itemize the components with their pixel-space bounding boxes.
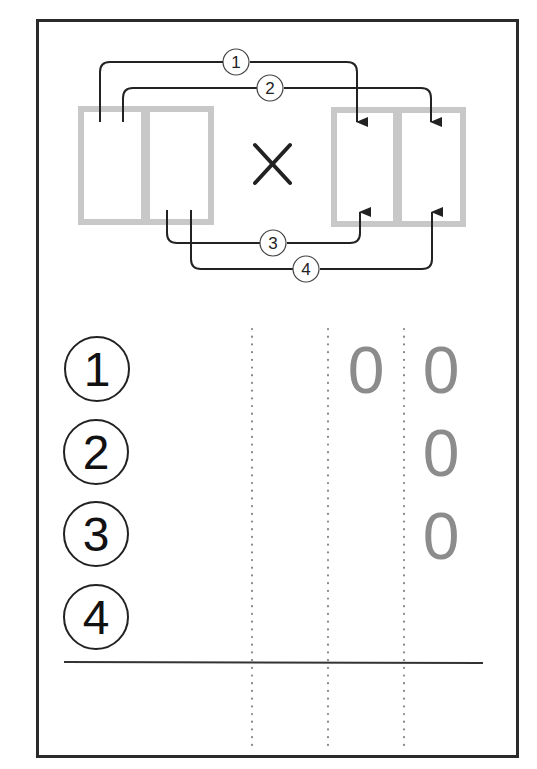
row-label-1-text: 1	[84, 343, 111, 396]
right-ones-box	[399, 110, 463, 224]
right-tens-box	[334, 110, 396, 224]
arrow-label-2: 2	[265, 79, 274, 98]
row-1-digit-ones: 0	[423, 333, 460, 407]
row-label-3: 3	[64, 502, 128, 566]
row-label-1: 1	[65, 337, 129, 401]
multiply-icon	[255, 145, 290, 183]
row-label-3-text: 3	[83, 508, 110, 561]
row-3-digit-ones: 0	[423, 499, 460, 573]
row-2-digit-ones: 0	[423, 416, 460, 490]
row-1-digit-tens: 0	[348, 333, 385, 407]
sum-line	[64, 662, 483, 663]
arrow-label-4: 4	[301, 260, 310, 279]
left-tens-box	[81, 109, 144, 222]
arrow-label-1: 1	[231, 53, 240, 72]
diagram-canvas: 1 2 3 4 1 2 3 4 0 0 0 0	[0, 0, 537, 769]
row-label-4: 4	[64, 585, 128, 649]
row-label-2-text: 2	[83, 426, 110, 479]
arrow-path-2: 2	[123, 75, 431, 122]
right-factor-boxes	[334, 110, 463, 224]
left-factor-boxes	[81, 109, 211, 222]
arrow-label-3: 3	[268, 234, 277, 253]
row-label-4-text: 4	[83, 591, 110, 644]
row-label-2: 2	[64, 420, 128, 484]
left-ones-box	[147, 109, 211, 222]
